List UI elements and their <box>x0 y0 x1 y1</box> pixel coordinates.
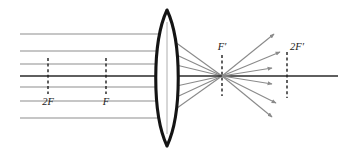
diverging-ray-6 <box>222 76 272 117</box>
label-f-right: F′ <box>217 41 227 52</box>
optics-diagram-figure: 2F F F′ 2F′ <box>0 0 347 153</box>
label-2f-left: 2F <box>42 96 54 107</box>
diverging-ray-3 <box>222 68 272 76</box>
diverging-ray-1 <box>222 34 274 76</box>
diverging-ray-2 <box>222 52 280 76</box>
ray-diagram-canvas: 2F F F′ 2F′ <box>0 0 347 153</box>
label-f-left: F <box>102 96 110 107</box>
label-2f-right: 2F′ <box>290 41 305 52</box>
